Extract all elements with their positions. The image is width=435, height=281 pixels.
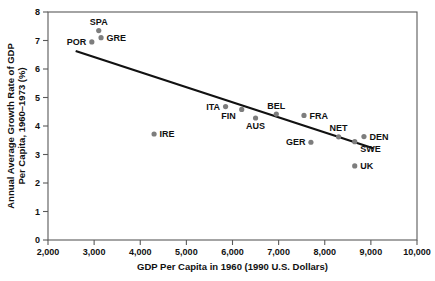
point-label-fra: FRA (309, 111, 328, 121)
point-label-ita: ITA (206, 102, 220, 112)
point-label-gre: GRE (107, 33, 127, 43)
trend-line (76, 51, 374, 148)
y-axis-title-line: Per Capita, 1960–1973 (%) (16, 67, 27, 184)
data-point-ire (151, 131, 156, 136)
y-tick-label: 4 (35, 121, 40, 131)
y-tick-label: 1 (35, 207, 40, 217)
y-axis-title-line: Annual Average Growth Rate of GDP (5, 43, 16, 209)
y-tick-label: 5 (35, 93, 40, 103)
data-point-net (336, 134, 341, 139)
point-label-por: POR (67, 37, 87, 47)
data-point-aus (253, 115, 258, 120)
x-tick-label: 5,000 (175, 247, 198, 257)
y-axis-title: Annual Average Growth Rate of GDPPer Cap… (5, 43, 27, 209)
y-tick-label: 6 (35, 64, 40, 74)
y-tick-label: 3 (35, 150, 40, 160)
data-point-den (361, 134, 366, 139)
data-point-por (89, 39, 94, 44)
point-label-uk: UK (360, 161, 373, 171)
data-point-ger (308, 140, 313, 145)
data-point-uk (352, 163, 357, 168)
x-tick-label: 6,000 (221, 247, 244, 257)
point-label-ire: IRE (160, 129, 175, 139)
point-label-fin: FIN (221, 111, 236, 121)
point-label-bel: BEL (267, 101, 286, 111)
y-tick-label: 0 (35, 235, 40, 245)
data-point-gre (98, 35, 103, 40)
point-label-swe: SWE (360, 144, 381, 154)
scatter-chart: 2,0003,0004,0005,0006,0007,0008,0009,000… (0, 0, 435, 281)
point-label-spa: SPA (90, 17, 108, 27)
y-tick-label: 7 (35, 36, 40, 46)
x-tick-label: 8,000 (313, 247, 336, 257)
chart-canvas: 2,0003,0004,0005,0006,0007,0008,0009,000… (0, 0, 435, 281)
y-tick-label: 8 (35, 7, 40, 17)
x-tick-label: 3,000 (83, 247, 106, 257)
data-point-bel (274, 111, 279, 116)
point-label-aus: AUS (246, 121, 265, 131)
x-axis-title: GDP Per Capita in 1960 (1990 U.S. Dollar… (137, 261, 328, 272)
x-tick-label: 9,000 (360, 247, 383, 257)
x-tick-label: 7,000 (267, 247, 290, 257)
x-tick-label: 4,000 (129, 247, 152, 257)
point-label-ger: GER (286, 137, 306, 147)
x-tick-label: 2,000 (37, 247, 60, 257)
data-point-fin (239, 107, 244, 112)
point-label-den: DEN (369, 132, 388, 142)
data-point-spa (96, 28, 101, 33)
y-tick-label: 2 (35, 178, 40, 188)
data-point-swe (352, 139, 357, 144)
data-point-ita (223, 104, 228, 109)
plot-frame (48, 12, 417, 240)
x-tick-label: 10,000 (403, 247, 431, 257)
data-point-fra (301, 113, 306, 118)
point-label-net: NET (330, 123, 349, 133)
